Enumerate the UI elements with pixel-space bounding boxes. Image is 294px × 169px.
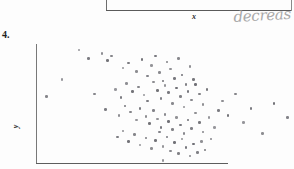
scatter-point	[160, 97, 163, 100]
scatter-point	[173, 141, 176, 144]
scatter-point	[143, 94, 146, 97]
scatter-point	[200, 140, 203, 143]
scatter-point	[118, 114, 121, 117]
scatter-point	[124, 105, 127, 108]
scatter-point	[122, 130, 125, 133]
scatter-point	[156, 89, 159, 92]
scatter-point	[162, 80, 165, 83]
scatter-point	[210, 138, 213, 141]
scatter-point	[162, 145, 165, 148]
previous-figure-x-axis-label: x	[192, 12, 196, 21]
scatter-point	[129, 111, 132, 114]
scatter-point	[286, 116, 289, 119]
scatter-point	[167, 120, 170, 123]
scatter-point	[166, 136, 169, 139]
scatter-point	[152, 109, 155, 112]
scatter-point	[202, 103, 205, 106]
scatter-point	[175, 116, 178, 119]
scatter-point	[185, 83, 188, 86]
scatter-point	[139, 144, 142, 147]
scatter-point	[217, 109, 220, 112]
scatter-point	[166, 61, 169, 64]
scatter-point	[145, 115, 148, 118]
scatter-point	[116, 136, 119, 139]
scatter-point	[45, 95, 48, 98]
scatter-point	[173, 77, 176, 80]
scatter-point	[148, 122, 151, 125]
scatter-point	[114, 88, 117, 91]
scatter-point	[169, 68, 172, 71]
scatter-point	[146, 100, 149, 103]
scatter-point	[273, 102, 276, 105]
scatter-point	[61, 78, 64, 81]
scatter-point	[131, 90, 134, 93]
scatter-point	[183, 106, 186, 109]
x-axis-line	[36, 163, 228, 164]
scatter-point	[198, 121, 201, 124]
scatter-point	[179, 95, 182, 98]
scatter-point	[154, 55, 157, 58]
scatter-point	[127, 140, 130, 143]
scatter-point	[93, 93, 96, 96]
worksheet-page: x decreas 4. y	[0, 0, 294, 169]
scatter-point	[206, 88, 209, 91]
scatter-point	[190, 127, 193, 130]
scatter-point	[189, 155, 192, 158]
scatter-point	[250, 107, 253, 110]
scatter-point	[120, 96, 123, 99]
scatter-point	[171, 128, 174, 131]
scatter-point	[213, 126, 216, 129]
scatter-point	[87, 57, 90, 60]
scatter-point	[160, 126, 163, 129]
scatter-point	[234, 93, 237, 96]
scatter-point	[158, 71, 161, 74]
scatter-point	[125, 82, 128, 85]
scatter-point	[194, 112, 197, 115]
scatter-point	[177, 152, 180, 155]
scatter-plot-figure: y	[0, 40, 294, 169]
scatter-point	[190, 99, 193, 102]
scatter-point	[145, 137, 148, 140]
scatter-point	[196, 151, 199, 154]
scatter-point	[175, 87, 178, 90]
scatter-point	[227, 114, 230, 117]
scatter-point	[154, 139, 157, 142]
scatter-point	[198, 93, 201, 96]
scatter-point	[135, 70, 138, 73]
scatter-point	[164, 84, 167, 87]
scatter-point	[137, 86, 140, 89]
scatter-point	[208, 116, 211, 119]
scatter-point	[177, 57, 180, 60]
scatter-point	[189, 65, 192, 68]
scatter-point	[78, 49, 81, 52]
scatter-point	[181, 74, 184, 77]
scatter-point	[101, 52, 104, 55]
scatter-point	[221, 100, 224, 103]
scatter-point	[192, 143, 195, 146]
scatter-point	[156, 118, 159, 121]
handwritten-annotation: decreas	[233, 5, 291, 26]
y-axis-label: y	[11, 125, 20, 129]
scatter-point	[158, 131, 161, 134]
scatter-point	[261, 132, 264, 135]
scatter-point	[202, 131, 205, 134]
scatter-point	[106, 59, 109, 62]
scatter-point	[179, 124, 182, 127]
scatter-point	[133, 133, 136, 136]
scatter-point	[135, 119, 138, 122]
scatter-point	[242, 121, 245, 124]
scatter-point	[104, 108, 107, 111]
scatter-point	[183, 132, 186, 135]
scatter-point	[181, 138, 184, 141]
scatter-point	[185, 146, 188, 149]
scatter-point	[192, 78, 195, 81]
scatter-point	[122, 67, 125, 70]
scatter-point	[141, 58, 144, 61]
scatter-point	[127, 62, 130, 65]
scatter-point	[139, 107, 142, 110]
scatter-point	[150, 64, 153, 67]
question-number-label: 4.	[2, 29, 10, 40]
scatter-point	[164, 113, 167, 116]
scatter-plot-area	[37, 44, 228, 163]
scatter-point	[167, 91, 170, 94]
